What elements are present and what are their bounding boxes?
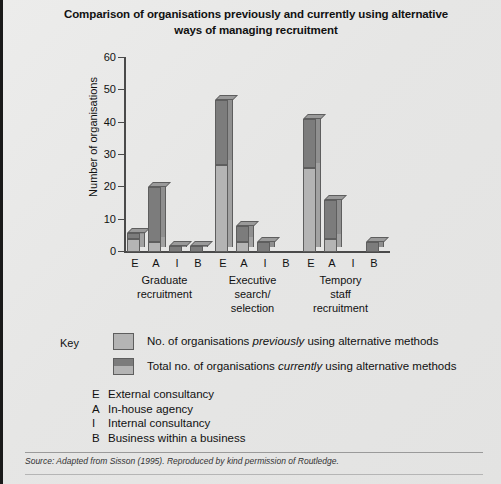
x-axis-group-label-line: recruitment (137, 288, 192, 300)
bar-side-face-previously (249, 237, 254, 247)
bar-side-face-previously (140, 234, 145, 247)
bar-segment-currently (236, 226, 249, 242)
key-label: Key (60, 337, 79, 349)
chart-figure: Comparison of organisations previously a… (0, 0, 501, 484)
x-axis-category-label: I (254, 257, 276, 269)
abbreviation-letter: A (92, 402, 108, 417)
bar-segment-previously (236, 242, 249, 252)
bar-side-face-currently (161, 182, 166, 237)
bar-segment-currently (148, 187, 161, 242)
y-axis-tick (118, 154, 124, 155)
key-swatch (113, 333, 134, 350)
x-axis-category-label: B (187, 257, 209, 269)
y-axis-tick (118, 122, 124, 123)
bar (324, 200, 337, 252)
source-prefix: Source: (25, 456, 54, 466)
bottom-divider (25, 474, 483, 475)
abbreviation-meaning: Business within a business (108, 432, 245, 444)
bar-side-face-previously (337, 234, 342, 247)
key-text-after: using alternative methods (304, 335, 438, 347)
bar-segment-currently (257, 242, 270, 252)
key-swatch (113, 358, 134, 375)
x-axis-category-label: B (363, 257, 385, 269)
abbreviation-list: EExternal consultancyAIn-house agencyIIn… (92, 387, 245, 445)
x-axis-group-label-line: selection (231, 302, 274, 314)
bar-top-face (324, 195, 347, 200)
key-item-text: Total no. of organisations currently usi… (147, 360, 456, 372)
bar-side-face-previously (228, 160, 233, 247)
abbreviation-letter: E (92, 387, 108, 402)
bar-side-face-previously (316, 163, 321, 247)
abbreviation-meaning: External consultancy (108, 388, 214, 400)
x-axis-group-label-line: Executive (229, 274, 277, 286)
x-axis-group-label-line: Tempory (319, 274, 361, 286)
x-axis-group-label-line: staff (330, 288, 351, 300)
bar-side-face-currently (337, 195, 342, 234)
bar-side-face-currently (316, 114, 321, 163)
bar-segment-previously (303, 168, 316, 252)
x-axis-group-label-line: search/ (234, 288, 270, 300)
abbreviation-row: AIn-house agency (92, 402, 245, 417)
bar-top-face (148, 182, 171, 187)
bar (257, 242, 270, 252)
source-divider (25, 452, 483, 453)
bar (127, 233, 140, 252)
y-axis-tick (118, 89, 124, 90)
y-axis-line (124, 57, 126, 253)
bar-segment-currently (324, 200, 337, 239)
bar (148, 187, 161, 252)
bar-top-face (257, 237, 280, 242)
key-item-text: No. of organisations previously using al… (147, 335, 439, 347)
source-text: Adapted from Sisson (1995). Reproduced b… (54, 456, 339, 466)
x-axis-group-label-line: Graduate (142, 274, 188, 286)
bar-top-face (127, 228, 150, 233)
abbreviation-letter: B (92, 431, 108, 446)
abbreviation-row: EExternal consultancy (92, 387, 245, 402)
bar-segment-currently (127, 233, 140, 239)
bar-segment-currently (190, 246, 203, 252)
bar-segment-previously (148, 242, 161, 252)
abbreviation-row: BBusiness within a business (92, 431, 245, 446)
key-text-before: No. of organisations (147, 335, 252, 347)
y-axis-title: Number of organisations (87, 42, 99, 232)
bar (236, 226, 249, 252)
key-text-after: using alternative methods (322, 360, 456, 372)
bar-top-face (169, 241, 192, 246)
x-axis-category-label: A (145, 257, 167, 269)
bar-segment-currently (303, 119, 316, 168)
bar-side-face-currently (228, 95, 233, 160)
bar-segment-currently (366, 242, 379, 252)
bar-top-face (215, 95, 238, 100)
bar-segment-currently (169, 246, 182, 252)
bar-top-face (190, 241, 213, 246)
chart-title: Comparison of organisations previously a… (31, 6, 481, 38)
key-text-emphasis: previously (252, 335, 304, 347)
bar-top-face (366, 237, 389, 242)
key-text-emphasis: currently (278, 360, 322, 372)
abbreviation-meaning: In-house agency (108, 403, 193, 415)
bar (190, 246, 203, 252)
chart-title-line-1: Comparison of organisations previously a… (64, 8, 448, 20)
x-axis-category-label: A (233, 257, 255, 269)
y-axis-tick (118, 219, 124, 220)
bar (215, 100, 228, 252)
bar-segment-previously (324, 239, 337, 252)
x-axis-group-label-line: recruitment (313, 302, 368, 314)
bar-side-face-previously (161, 237, 166, 247)
x-axis-category-label: E (300, 257, 322, 269)
bar (366, 242, 379, 252)
abbreviation-meaning: Internal consultancy (108, 417, 210, 429)
x-axis-category-label: E (212, 257, 234, 269)
abbreviation-row: IInternal consultancy (92, 416, 245, 431)
y-axis-tick (118, 57, 124, 58)
x-axis-category-label: A (321, 257, 343, 269)
x-axis-category-label: I (166, 257, 188, 269)
chart-title-line-2: ways of managing recruitment (174, 24, 337, 36)
y-axis-tick (118, 251, 124, 252)
x-axis-group-label: Temporystaffrecruitment (281, 273, 401, 315)
plot-area: 0102030405060 Number of organisations EA… (124, 57, 388, 252)
y-axis-tick-label: 0 (76, 246, 116, 257)
y-axis-tick (118, 186, 124, 187)
bar-top-face (303, 114, 326, 119)
x-axis-category-label: B (275, 257, 297, 269)
